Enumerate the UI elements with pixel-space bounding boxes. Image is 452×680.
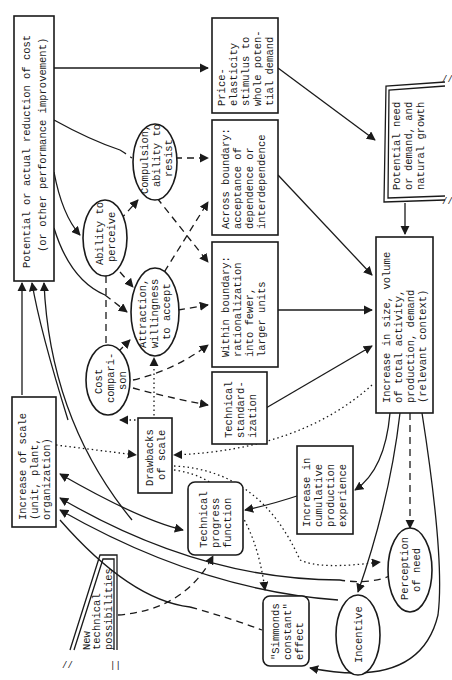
edge-dashed: [105, 295, 127, 312]
node-label: elasticity: [228, 43, 240, 106]
node-label: (unit, plant,: [29, 438, 41, 520]
feedback-diagram: Potential or actual reduction of cost (o…: [0, 0, 452, 680]
node-label: or demand, and: [403, 102, 415, 190]
node-label: ability to: [151, 124, 163, 187]
node-label: whole poten-: [252, 30, 264, 106]
node-label: Perception: [399, 537, 411, 600]
node-label: "Simmonds: [270, 603, 282, 660]
node-attraction: Attraction, willingness to accept: [131, 268, 179, 356]
edge-solid: [278, 175, 372, 275]
node-increase-size: Increase in size, volume of total activi…: [376, 237, 433, 413]
node-label: perceive: [106, 212, 118, 262]
edge-dotted: [56, 445, 136, 455]
edge-dotted: [174, 385, 372, 455]
node-label: into fewer,: [244, 288, 256, 357]
node-label: rationalization: [232, 262, 244, 357]
edge-dashed: [157, 198, 208, 262]
node-label: Potential or actual reduction of cost: [21, 35, 33, 268]
node-label: Potential need: [391, 102, 403, 190]
node-technical-progress: Technical progress function: [188, 482, 243, 555]
node-label: function: [222, 498, 234, 548]
break-mark: //: [62, 661, 73, 671]
edge-solid: [54, 120, 120, 150]
edge-solid: [60, 520, 190, 607]
node-label: Ability to: [94, 202, 106, 265]
node-label: of scale: [156, 430, 168, 480]
node-label: compari-: [105, 353, 117, 403]
edge-dashed: [178, 305, 208, 310]
break-mark: //: [442, 75, 452, 85]
node-label: tial demand: [264, 37, 276, 106]
node-label: larger units: [256, 281, 268, 357]
node-increase-scale: Increase of scale (unit, plant, organiza…: [12, 397, 56, 527]
edge-dashed: [158, 202, 208, 282]
node-label: Cost: [93, 369, 105, 394]
node-label: progress: [210, 498, 222, 548]
edge-solid: [266, 346, 372, 408]
node-label: Drawbacks: [144, 429, 156, 486]
edge-dashed: [340, 575, 392, 582]
node-across-boundary: Across boundary: acceptance of dependenc…: [212, 120, 278, 235]
node-new-possibilities: // || New technical possibilities: [62, 555, 121, 671]
node-incentive: Incentive: [336, 595, 380, 675]
node-label: willingness: [149, 279, 161, 348]
node-label: stimulus to: [240, 37, 252, 106]
node-label: Attraction,: [137, 279, 149, 348]
node-potential-reduction: Potential or actual reduction of cost (o…: [14, 16, 54, 281]
node-label: acceptance of: [232, 147, 244, 229]
node-label: organization): [41, 438, 53, 520]
node-label: Technical: [198, 491, 210, 548]
node-label: standard-: [235, 381, 247, 438]
node-label: constant": [282, 603, 294, 660]
node-label: son: [117, 371, 129, 390]
edge-dashed: [190, 607, 262, 630]
node-label: production: [325, 464, 337, 527]
edge-dashed: [133, 388, 208, 405]
node-ability-perceive: Ability to perceive: [83, 200, 127, 276]
node-label: production, demand: [405, 290, 417, 403]
node-label: Compulsion,: [139, 125, 151, 194]
edge-dashed: [120, 150, 132, 158]
edge-dashed: [120, 272, 133, 287]
node-cost-comparison: Cost compari- son: [86, 345, 130, 415]
node-label: technical: [91, 593, 103, 650]
edge-solid: [355, 413, 390, 490]
edge-solid: [278, 68, 375, 140]
node-label: ization: [247, 394, 259, 438]
node-label: of need: [411, 548, 423, 592]
node-compulsion: Compulsion, ability to resist: [133, 124, 177, 200]
node-label: to accept: [161, 283, 173, 340]
node-label: possibilities: [103, 568, 115, 650]
node-cumulative-experience: Increase in cumulative production experi…: [297, 446, 353, 534]
node-drawbacks-scale: Drawbacks of scale: [138, 418, 172, 493]
node-perception-need: Perception of need: [388, 528, 432, 612]
node-label: Incentive: [353, 606, 365, 663]
node-label: effect: [294, 622, 306, 660]
node-label: of total activity,: [393, 290, 405, 403]
node-label: Increase of scale: [17, 413, 29, 520]
node-label: interdependence: [256, 134, 268, 229]
node-label: resist: [163, 139, 175, 177]
break-mark: //: [442, 197, 452, 207]
node-label: cumulative: [313, 464, 325, 527]
node-label: Across boundary:: [220, 128, 232, 229]
node-potential-need: // // Potential need or demand, and natu…: [384, 75, 452, 207]
node-simmonds-effect: "Simmonds constant" effect: [263, 596, 309, 666]
node-label: (relevant context): [417, 290, 429, 403]
node-technical-standardization: Technical standard- ization: [212, 372, 267, 444]
node-label: experience: [337, 464, 349, 527]
node-label: (or other performance improvement): [37, 38, 49, 252]
break-mark: ||: [110, 661, 121, 671]
node-within-boundary: Within boundary: rationalization into fe…: [212, 242, 278, 367]
node-label: dependence or: [244, 147, 256, 229]
node-price-elasticity: Price- elasticity stimulus to whole pote…: [212, 18, 278, 113]
node-label: Technical: [223, 381, 235, 438]
node-label: natural growth: [415, 102, 427, 190]
edge-solid: [245, 495, 300, 510]
node-label: Increase in size, volume: [381, 252, 393, 403]
node-label: Increase in: [301, 458, 313, 527]
edge-solid: [54, 172, 80, 235]
node-label: Within boundary:: [220, 256, 232, 357]
node-label: Price-: [216, 68, 228, 106]
